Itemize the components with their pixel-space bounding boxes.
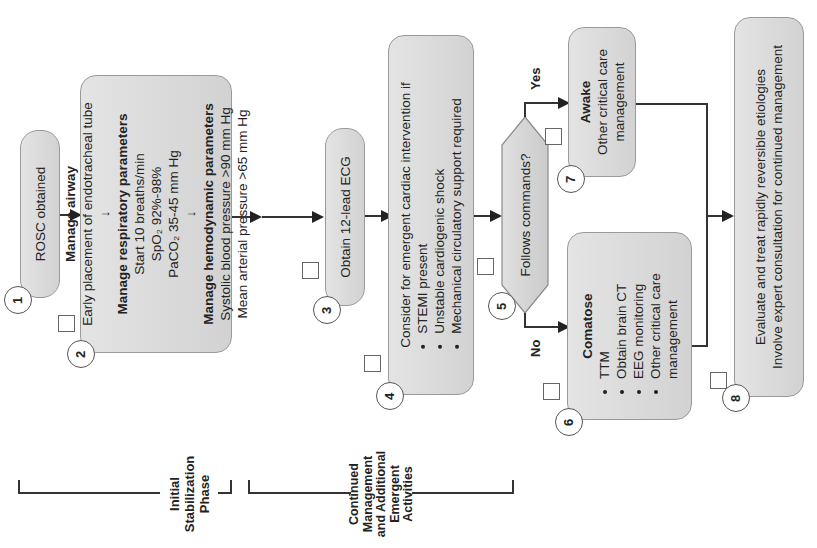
- hemodynamic-title: Manage hemodynamic parameters: [200, 79, 217, 349]
- step-8-line-1: Evaluate and treat rapidly reversible et…: [752, 45, 769, 369]
- step-8-line-2: Involve expert consultation for continue…: [769, 45, 786, 369]
- arrow-to-8-head: [722, 210, 734, 222]
- respiratory-line-3: PaCO₂ 35-45 mm Hg: [165, 79, 182, 349]
- step-1-box: ROSC obtained: [20, 130, 60, 298]
- phase-1-bracket-line-left: [18, 492, 160, 494]
- step-6-content: Comatose TTM Obtain brain CT EEG monitor…: [579, 259, 681, 393]
- phase-1-label-line: Initial: [167, 456, 182, 533]
- step-1-number: 1: [4, 286, 32, 314]
- step-6-bullets: TTM Obtain brain CT EEG monitoring Other…: [596, 259, 681, 393]
- merge-vertical: [706, 103, 708, 347]
- step-2-box: Manage airway Early placement of endotra…: [80, 75, 232, 353]
- step-2-checkbox[interactable]: [58, 315, 75, 332]
- step-5-checkbox[interactable]: [477, 258, 494, 275]
- phase-2-bracket-line-left: [248, 492, 351, 494]
- respiratory-line-1: Start 10 breaths/min: [131, 79, 148, 349]
- step-4-intro: Consider for emergent cardiac interventi…: [397, 82, 414, 348]
- step-2-content: Manage airway Early placement of endotra…: [62, 79, 251, 349]
- step-7-line-1: Other critical care: [594, 49, 611, 155]
- step-8-content: Evaluate and treat rapidly reversible et…: [752, 45, 786, 369]
- step-5-question: Follows commands?: [517, 153, 534, 276]
- yes-branch-vertical: [524, 102, 526, 117]
- step-7-line-2: management: [611, 49, 628, 155]
- step-1-text: ROSC obtained: [32, 167, 49, 262]
- airway-line-1: Early placement of endotracheal tube: [79, 79, 96, 349]
- phase-1-bracket-end-right: [230, 480, 232, 494]
- phase-2-label-line: Management: [361, 451, 375, 537]
- phase-2-label-line: Activities: [402, 451, 416, 537]
- respiratory-title: Manage respiratory parameters: [114, 79, 131, 349]
- phase-2-label-line: Emergent: [388, 451, 402, 537]
- phase-2-label-line: and Additional: [375, 451, 389, 537]
- respiratory-line-2: SpO₂ 92%-98%: [148, 79, 165, 349]
- step-6-number: 6: [555, 408, 583, 436]
- step-7-content: Awake Other critical care management: [577, 49, 628, 155]
- phase-2-bracket-line-right: [412, 492, 514, 494]
- step-6-title: Comatose: [579, 259, 596, 393]
- bullet-item: Other critical care management: [647, 259, 681, 379]
- step-3-checkbox[interactable]: [302, 262, 319, 279]
- arrow-down-icon: ↓: [182, 79, 200, 349]
- step-5-text-wrap: Follows commands?: [500, 115, 550, 315]
- step-4-content: Consider for emergent cardiac interventi…: [397, 82, 465, 348]
- arrow-down-icon: ↓: [96, 79, 114, 349]
- step-2-number: 2: [67, 340, 95, 368]
- step-4-bullets: STEMI present Unstable cardiogenic shock…: [414, 82, 465, 348]
- arrow-2-3-ext: [262, 216, 314, 218]
- step-4-checkbox[interactable]: [364, 355, 381, 372]
- airway-title: Manage airway: [62, 79, 79, 349]
- phase-2-bracket-end-right: [512, 480, 514, 494]
- phase-1-label-line: Stabilization: [182, 456, 197, 533]
- step-3-box: Obtain 12-lead ECG: [325, 128, 365, 306]
- phase-2-bracket-end-left: [248, 480, 250, 494]
- bullet-item: EEG monitoring: [630, 259, 647, 379]
- step-7-checkbox[interactable]: [545, 128, 562, 145]
- step-3-number: 3: [313, 296, 341, 324]
- arrow-2-3-head-b: [312, 211, 324, 223]
- hemodynamic-line-2: Mean arterial pressure >65 mm Hg: [234, 79, 251, 349]
- phase-1-label-line: Phase: [197, 456, 212, 533]
- step-6-checkbox[interactable]: [543, 383, 560, 400]
- bullet-item: Mechanical circulatory support required: [448, 82, 465, 334]
- merge-from-7: [636, 103, 707, 105]
- step-8-box: Evaluate and treat rapidly reversible et…: [734, 17, 804, 397]
- arrow-2-3-head: [250, 211, 262, 223]
- phase-1-bracket-end-left: [18, 480, 20, 494]
- step-4-number: 4: [376, 382, 404, 410]
- merge-from-6: [692, 345, 708, 347]
- hemodynamic-line-1: Systolic blood pressure >90 mm Hg: [217, 79, 234, 349]
- step-7-box: Awake Other critical care management: [568, 27, 636, 177]
- step-4-box: Consider for emergent cardiac interventi…: [388, 35, 474, 395]
- step-5-number: 5: [488, 292, 516, 320]
- step-6-box: Comatose TTM Obtain brain CT EEG monitor…: [567, 232, 692, 420]
- bullet-item: TTM: [596, 259, 613, 379]
- bullet-item: STEMI present: [414, 82, 431, 334]
- step-7-number: 7: [557, 165, 585, 193]
- bullet-item: Obtain brain CT: [613, 259, 630, 379]
- no-label: No: [528, 340, 543, 357]
- yes-label: Yes: [528, 68, 543, 90]
- step-3-text: Obtain 12-lead ECG: [337, 156, 354, 278]
- step-7-title: Awake: [577, 49, 594, 155]
- bullet-item: Unstable cardiogenic shock: [431, 82, 448, 334]
- phase-2-label: Continued Management and Additional Emer…: [351, 440, 412, 548]
- phase-2-label-line: Continued: [348, 451, 362, 537]
- phase-1-label: Initial Stabilization Phase: [160, 440, 218, 548]
- step-8-checkbox[interactable]: [710, 372, 727, 389]
